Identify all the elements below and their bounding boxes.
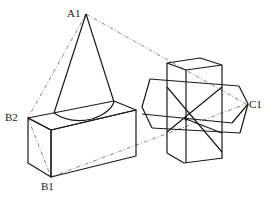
center-point bbox=[184, 117, 187, 120]
band-bottom bbox=[152, 128, 240, 133]
band-top bbox=[150, 79, 239, 86]
box-top-face bbox=[28, 101, 136, 130]
label-b2: B2 bbox=[5, 111, 18, 123]
dash-b2-b1 bbox=[28, 118, 51, 177]
diag-2 bbox=[167, 87, 222, 132]
diagram-canvas: A1 B2 B1 C1 bbox=[0, 0, 271, 205]
left-end bbox=[142, 79, 152, 128]
label-c1: C1 bbox=[249, 98, 262, 110]
strip-bottom-edge bbox=[167, 153, 223, 163]
cone bbox=[54, 14, 114, 121]
diag-1 bbox=[167, 87, 222, 152]
label-a1: A1 bbox=[67, 7, 80, 19]
cross-solid bbox=[142, 58, 248, 163]
label-b1: B1 bbox=[41, 180, 54, 192]
dashed-lines bbox=[28, 14, 246, 177]
box-front-face bbox=[51, 110, 136, 177]
